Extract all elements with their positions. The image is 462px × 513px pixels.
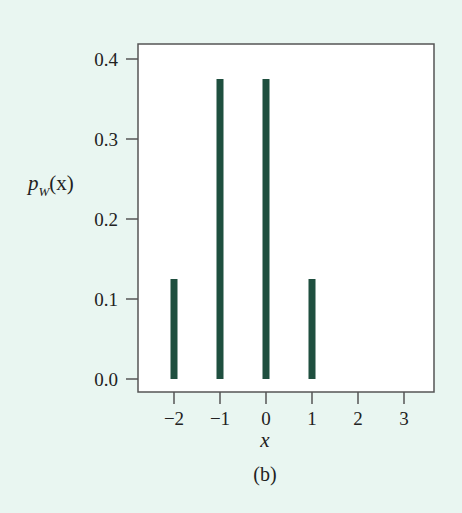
x-axis-ticks: −2−10123 [164, 392, 409, 429]
bar [171, 279, 178, 379]
y-axis-ticks: 0.00.10.20.30.4 [94, 49, 138, 390]
y-tick-label: 0.1 [94, 289, 118, 310]
y-tick-label: 0.0 [94, 369, 118, 390]
bar [309, 279, 316, 379]
bar [217, 79, 224, 379]
bar [263, 79, 270, 379]
y-axis-label: pW(x) [26, 171, 74, 199]
y-tick-label: 0.3 [94, 129, 118, 150]
x-axis-label: x [259, 428, 270, 452]
pmf-stem-chart: 0.00.10.20.30.4 −2−10123 pW(x) x (b) [0, 0, 462, 513]
figure-caption: (b) [253, 463, 276, 486]
y-tick-label: 0.4 [94, 49, 118, 70]
y-tick-label: 0.2 [94, 209, 118, 230]
x-tick-label: 2 [353, 408, 363, 429]
x-tick-label: 1 [307, 408, 317, 429]
x-tick-label: 0 [261, 408, 271, 429]
plot-area [138, 44, 434, 392]
x-tick-label: 3 [399, 408, 409, 429]
x-tick-label: −1 [210, 408, 230, 429]
x-tick-label: −2 [164, 408, 184, 429]
